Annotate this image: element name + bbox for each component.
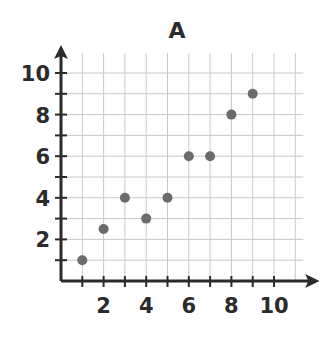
data-point [120, 193, 130, 203]
scatter-chart: A 246810 246810 [0, 0, 319, 343]
data-point [141, 214, 151, 224]
chart-title: A [168, 18, 185, 43]
x-axis-tick-labels: 246810 [96, 294, 288, 318]
y-axis-tick-labels: 246810 [21, 62, 50, 252]
y-tick-label: 8 [35, 104, 50, 128]
y-tick-label: 2 [35, 228, 50, 252]
y-tick-label: 10 [21, 62, 50, 86]
x-tick-label: 2 [96, 294, 111, 318]
y-tick-label: 6 [35, 145, 50, 169]
y-tick-label: 4 [35, 187, 50, 211]
x-tick-label: 6 [181, 294, 196, 318]
data-point [226, 110, 236, 120]
x-tick-label: 10 [259, 294, 288, 318]
grid-lines [61, 53, 303, 281]
data-point [248, 89, 258, 99]
axes [54, 45, 319, 288]
x-tick-label: 8 [224, 294, 239, 318]
data-point [184, 151, 194, 161]
data-point [77, 255, 87, 265]
data-point [99, 224, 109, 234]
x-tick-label: 4 [139, 294, 154, 318]
data-point [205, 151, 215, 161]
data-point [163, 193, 173, 203]
